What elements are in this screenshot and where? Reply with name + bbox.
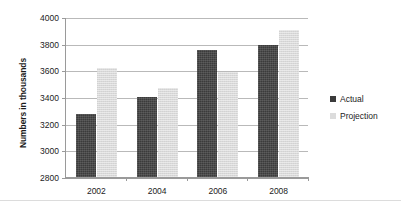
bar-group-2002: 2002 [66,18,127,177]
projection-swatch-icon [330,113,336,119]
y-axis-label-3000: 3000 [40,146,59,156]
y-tick-2800 [62,178,66,179]
bar-projection-2006[interactable] [218,72,238,177]
plot-area: 2800300032003400360038004000 20022004200… [65,18,308,178]
bar-projection-2008[interactable] [279,30,299,177]
y-axis-label-3600: 3600 [40,66,59,76]
bar-actual-2004[interactable] [137,97,157,177]
y-axis-label-3400: 3400 [40,93,59,103]
bar-actual-2006[interactable] [197,50,217,177]
actual-swatch-icon [330,96,336,102]
bar-projection-2004[interactable] [158,88,178,177]
bar-projection-2002[interactable] [97,68,117,177]
y-axis-label-3200: 3200 [40,120,59,130]
bar-chart-figure: Numbers in thousands 2800300032003400360… [0,0,401,211]
chart-legend: ActualProjection [330,90,400,124]
bar-group-2004: 2004 [127,18,188,177]
y-axis-label-4000: 4000 [40,13,59,23]
x-tick-2004 [187,177,188,181]
x-axis-label-2006: 2006 [208,186,227,196]
y-axis-label-3800: 3800 [40,40,59,50]
legend-item-projection[interactable]: Projection [330,107,400,124]
x-axis-label-2008: 2008 [269,186,288,196]
bottom-divider [0,200,401,201]
bar-actual-2002[interactable] [76,114,96,177]
x-axis-label-2002: 2002 [87,186,106,196]
x-tick-2002 [126,177,127,181]
bar-group-2008: 2008 [248,18,309,177]
bar-group-2006: 2006 [188,18,249,177]
legend-label-actual: Actual [340,94,364,104]
y-axis-label-2800: 2800 [40,173,59,183]
legend-item-actual[interactable]: Actual [330,90,400,107]
y-axis-title: Numbers in thousands [18,38,28,168]
x-axis-label-2004: 2004 [148,186,167,196]
x-tick-2008 [308,177,309,181]
legend-label-projection: Projection [340,111,378,121]
x-tick-2006 [247,177,248,181]
bar-actual-2008[interactable] [258,45,278,177]
